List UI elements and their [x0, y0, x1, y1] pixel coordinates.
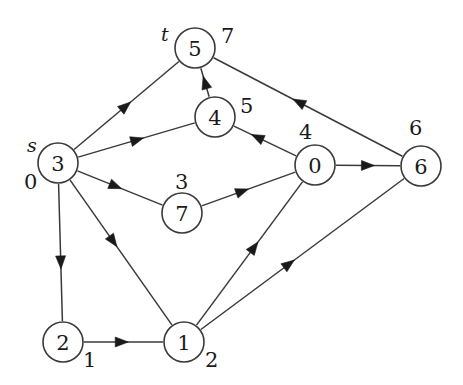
node-2[interactable]: 2 — [43, 322, 83, 362]
node-5-label: 5 — [188, 37, 201, 61]
edge-3-to-2-arrowhead — [56, 256, 66, 269]
edge-3-to-4 — [78, 123, 195, 157]
label-node-4-index: 5 — [240, 96, 253, 117]
node-7-label: 7 — [175, 202, 188, 226]
sink-marker: t — [161, 25, 169, 44]
edge-1-to-6-line — [201, 179, 404, 330]
edge-0-to-6-arrowhead — [361, 160, 374, 170]
label-node-7-index: 3 — [175, 172, 188, 193]
node-5[interactable]: 5 — [175, 28, 215, 68]
edge-0-to-6 — [336, 160, 400, 170]
edge-7-to-0 — [202, 172, 295, 206]
node-1[interactable]: 1 — [164, 322, 204, 362]
edge-1-to-0-line — [196, 182, 302, 325]
edge-1-to-6 — [201, 179, 404, 330]
label-node-3-index: 0 — [24, 172, 37, 193]
label-node-1-index: 2 — [205, 350, 218, 371]
node-0[interactable]: 0 — [295, 145, 335, 185]
node-1-label: 1 — [177, 331, 190, 355]
label-node-2-index: 1 — [83, 350, 96, 371]
edge-0-to-4-line — [234, 126, 296, 156]
edge-layer — [56, 58, 405, 347]
node-2-label: 2 — [56, 331, 69, 355]
edge-0-to-4-arrowhead — [251, 134, 265, 144]
node-4-label: 4 — [208, 106, 221, 130]
edge-1-to-0-arrowhead — [246, 242, 258, 255]
edge-3-to-2-line — [59, 184, 63, 321]
label-node-6-index: 6 — [409, 118, 422, 139]
edge-3-to-7 — [77, 171, 162, 205]
edge-3-to-1-line — [70, 180, 172, 325]
edge-1-to-0 — [196, 182, 302, 325]
node-6[interactable]: 6 — [401, 146, 441, 186]
directed-graph-figure: 54306721 st07546312 — [0, 0, 463, 385]
node-6-label: 6 — [414, 155, 427, 179]
edge-3-to-7-arrowhead — [108, 179, 122, 188]
edge-4-to-5-arrowhead — [202, 76, 212, 90]
label-node-5-index: 7 — [221, 26, 234, 47]
edge-0-to-4 — [234, 126, 296, 156]
edge-2-to-1-arrowhead — [115, 337, 128, 347]
edge-2-to-1 — [84, 337, 163, 347]
edge-3-to-5 — [74, 62, 179, 150]
edge-3-to-1-arrowhead — [105, 233, 117, 247]
graph-canvas: 54306721 — [0, 0, 463, 385]
node-7[interactable]: 7 — [162, 193, 202, 233]
edge-3-to-2 — [56, 184, 66, 321]
node-0-label: 0 — [308, 154, 321, 178]
edge-7-to-0-arrowhead — [235, 189, 249, 198]
node-3-label: 3 — [51, 152, 64, 176]
edge-4-to-5 — [201, 68, 212, 97]
edge-3-to-1 — [70, 180, 172, 325]
edge-6-to-5-arrowhead — [293, 99, 307, 109]
node-4[interactable]: 4 — [195, 97, 235, 137]
edge-1-to-6-arrowhead — [281, 260, 294, 272]
edge-3-to-4-arrowhead — [130, 137, 144, 147]
source-marker: s — [27, 136, 37, 155]
label-node-0-index: 4 — [299, 122, 312, 143]
node-3[interactable]: 3 — [38, 143, 78, 183]
